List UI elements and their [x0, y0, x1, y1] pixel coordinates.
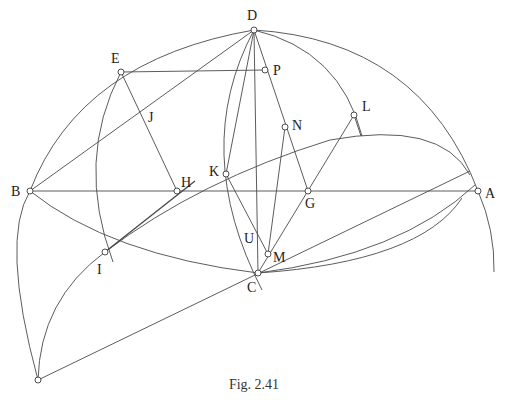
label-H: H — [181, 175, 191, 190]
label-G: G — [305, 196, 315, 211]
ellipse-tilted-upper — [105, 135, 470, 252]
point-N — [282, 124, 288, 130]
label-M: M — [273, 250, 286, 265]
line-D-M — [254, 30, 308, 191]
label-P: P — [273, 63, 281, 78]
label-U: U — [244, 231, 254, 246]
point-L — [351, 112, 357, 118]
label-K: K — [209, 164, 219, 179]
line-EH — [121, 72, 177, 191]
outer-circle-arc — [17, 30, 494, 380]
line-Q-to-right — [38, 171, 470, 380]
point-C — [255, 270, 261, 276]
point-K — [223, 171, 229, 177]
line-NM — [268, 127, 285, 254]
points — [27, 27, 481, 383]
line-DC — [254, 30, 258, 273]
ellipse-tilted-lower — [258, 185, 475, 273]
label-N: N — [292, 118, 302, 133]
point-I — [102, 249, 108, 255]
label-I: I — [97, 262, 102, 277]
line-I-H — [105, 181, 195, 252]
point-P — [262, 67, 268, 73]
line-BD — [30, 30, 254, 191]
point-B — [27, 188, 33, 194]
line-EP — [121, 70, 265, 72]
point-E — [118, 69, 124, 75]
label-D: D — [247, 8, 257, 23]
point-D — [251, 27, 257, 33]
point-G — [305, 188, 311, 194]
geometry-figure: D E P J N L B H K G A I U M C — [0, 0, 508, 400]
label-L: L — [362, 99, 371, 114]
point-A — [475, 188, 481, 194]
figure-caption: Fig. 2.41 — [0, 377, 508, 393]
point-H — [174, 188, 180, 194]
curve-Q-I — [38, 252, 105, 380]
line-DK — [226, 30, 254, 174]
label-E: E — [111, 51, 120, 66]
meridian-D-L — [254, 30, 362, 136]
label-J: J — [148, 110, 154, 125]
label-C: C — [247, 280, 256, 295]
point-M — [265, 251, 271, 257]
labels: D E P J N L B H K G A I U M C — [11, 8, 496, 295]
meridian-E-I — [96, 72, 121, 262]
label-B: B — [11, 184, 20, 199]
label-A: A — [485, 186, 496, 201]
